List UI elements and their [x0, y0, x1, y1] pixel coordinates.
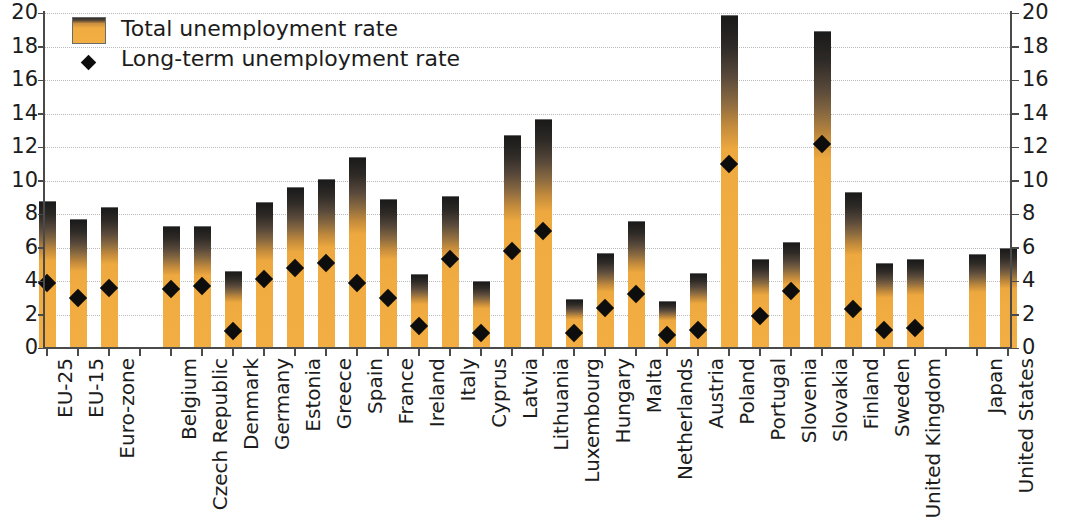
- y-axis-label-left-2: 2: [25, 304, 38, 325]
- y-axis-label-right-12: 12: [1022, 136, 1049, 157]
- x-tick-18: [604, 348, 606, 356]
- x-tick-20: [666, 348, 668, 356]
- y-tick-left-0: [38, 348, 45, 350]
- gridline-4: [44, 281, 1010, 282]
- y-axis-label-right-16: 16: [1022, 69, 1049, 90]
- y-tick-right-2: [1012, 314, 1019, 316]
- x-axis-label-malta: Malta: [644, 358, 664, 413]
- bar-swatch-icon: [72, 17, 106, 44]
- y-tick-right-18: [1012, 46, 1019, 48]
- y-axis-label-right-6: 6: [1022, 237, 1035, 258]
- x-tick-7: [263, 348, 265, 356]
- x-axis-label-eu-15: EU-15: [86, 358, 106, 418]
- y-axis-label-left-8: 8: [25, 203, 38, 224]
- x-tick-28: [914, 348, 916, 356]
- x-tick-8: [294, 348, 296, 356]
- x-axis-label-latvia: Latvia: [520, 358, 540, 419]
- x-tick-2: [108, 348, 110, 356]
- y-axis-label-left-6: 6: [25, 237, 38, 258]
- x-axis-label-sweden: Sweden: [892, 358, 912, 437]
- x-tick-5: [201, 348, 203, 356]
- bar-Italy: [442, 196, 459, 348]
- y-axis-label-right-20: 20: [1022, 2, 1049, 23]
- x-axis-label-austria: Austria: [706, 358, 726, 429]
- x-tick-9: [325, 348, 327, 356]
- gridline-10: [44, 181, 1010, 182]
- y-tick-left-16: [38, 80, 45, 82]
- bar-Ireland: [411, 274, 428, 348]
- x-tick-22: [728, 348, 730, 356]
- x-tick-29: [945, 348, 947, 356]
- x-axis-label-france: France: [396, 358, 416, 425]
- legend-label-total: Total unemployment rate: [121, 16, 398, 41]
- x-tick-16: [542, 348, 544, 356]
- y-axis-label-right-10: 10: [1022, 170, 1049, 191]
- x-axis-label-estonia: Estonia: [303, 358, 323, 432]
- x-axis-label-spain: Spain: [365, 358, 385, 414]
- x-tick-13: [449, 348, 451, 356]
- y-tick-left-18: [38, 46, 45, 48]
- bar-Portugal: [752, 259, 769, 348]
- y-axis-label-right-18: 18: [1022, 36, 1049, 57]
- y-axis-label-left-20: 20: [11, 2, 38, 23]
- x-tick-12: [418, 348, 420, 356]
- y-axis-label-right-14: 14: [1022, 103, 1049, 124]
- bar-Spain: [349, 157, 366, 348]
- bar-Japan: [969, 254, 986, 348]
- bar-Finland: [845, 192, 862, 348]
- x-tick-30: [976, 348, 978, 356]
- x-axis-line: [43, 347, 1012, 349]
- gridline-12: [44, 147, 1010, 148]
- y-axis-label-left-10: 10: [11, 170, 38, 191]
- bar-Poland: [721, 15, 738, 348]
- y-axis-label-left-14: 14: [11, 103, 38, 124]
- x-tick-26: [852, 348, 854, 356]
- x-axis-label-italy: Italy: [458, 358, 478, 401]
- y-tick-left-6: [38, 247, 45, 249]
- x-axis-label-slovenia: Slovenia: [799, 358, 819, 443]
- bar-Slovakia: [814, 31, 831, 348]
- x-axis-label-cyprus: Cyprus: [489, 358, 509, 428]
- x-axis-label-euro-zone: Euro-zone: [117, 358, 137, 459]
- x-tick-0: [46, 348, 48, 356]
- y-tick-left-20: [38, 13, 45, 15]
- y-tick-right-16: [1012, 80, 1019, 82]
- x-axis-label-belgium: Belgium: [179, 358, 199, 440]
- y-axis-label-right-8: 8: [1022, 203, 1035, 224]
- x-axis-label-poland: Poland: [737, 358, 757, 425]
- x-axis-label-ireland: Ireland: [427, 358, 447, 427]
- x-axis-label-portugal: Portugal: [768, 358, 788, 441]
- x-axis-label-netherlands: Netherlands: [675, 358, 695, 480]
- x-axis-label-finland: Finland: [861, 358, 881, 429]
- gridline-2: [44, 315, 1010, 316]
- unemployment-rate-chart: 0022446688101012121414161618182020EU-25E…: [0, 0, 1071, 524]
- bar-Euro-zone: [101, 207, 118, 348]
- x-tick-10: [356, 348, 358, 356]
- bar-United States: [1000, 248, 1017, 349]
- y-tick-left-4: [38, 281, 45, 283]
- x-axis-label-united-kingdom: United Kingdom: [923, 358, 943, 519]
- gridline-6: [44, 248, 1010, 249]
- x-tick-27: [883, 348, 885, 356]
- y-tick-right-20: [1012, 13, 1019, 15]
- x-axis-label-denmark: Denmark: [241, 358, 261, 450]
- x-axis-label-japan: Japan: [985, 358, 1005, 414]
- y-tick-left-8: [38, 214, 45, 216]
- x-tick-23: [759, 348, 761, 356]
- y-tick-right-12: [1012, 147, 1019, 149]
- gridline-14: [44, 114, 1010, 115]
- y-axis-label-left-18: 18: [11, 36, 38, 57]
- y-axis-label-left-12: 12: [11, 136, 38, 157]
- x-tick-15: [511, 348, 513, 356]
- y-tick-left-10: [38, 180, 45, 182]
- y-tick-right-10: [1012, 180, 1019, 182]
- y-axis-label-right-2: 2: [1022, 304, 1035, 325]
- x-tick-14: [480, 348, 482, 356]
- x-axis-label-lithuania: Lithuania: [551, 358, 571, 451]
- y-tick-right-0: [1012, 348, 1019, 350]
- x-axis-label-united-states: United States: [1016, 358, 1036, 493]
- x-tick-1: [77, 348, 79, 356]
- x-tick-4: [170, 348, 172, 356]
- y-axis-label-right-4: 4: [1022, 270, 1035, 291]
- x-tick-21: [697, 348, 699, 356]
